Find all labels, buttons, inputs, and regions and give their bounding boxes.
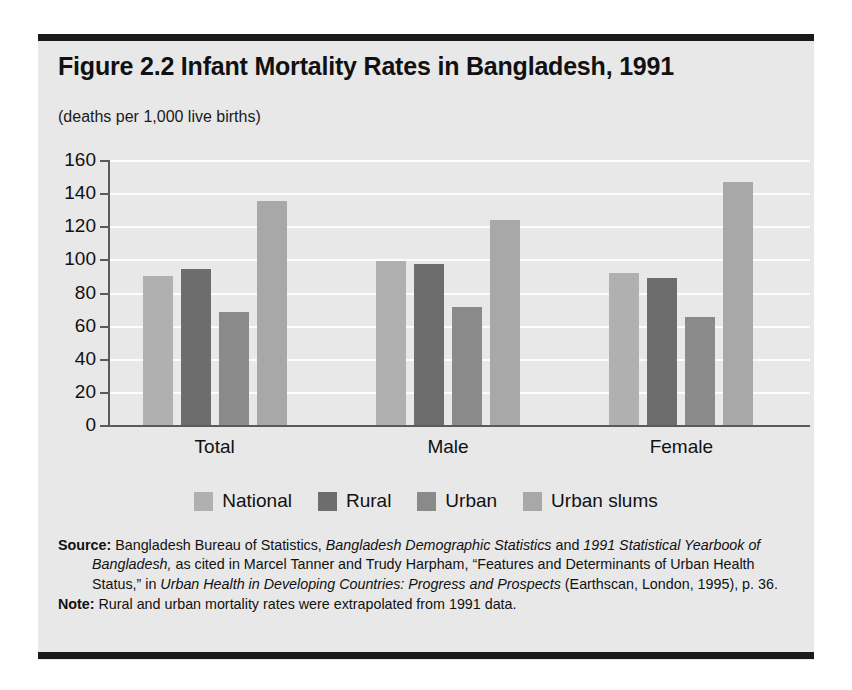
legend-swatch-icon (523, 492, 542, 511)
legend-swatch-icon (318, 492, 337, 511)
legend-item-urban[interactable]: Urban (417, 490, 497, 512)
source-label: Source: (58, 537, 111, 553)
legend-swatch-icon (194, 492, 213, 511)
y-axis-label: 100 (38, 248, 96, 270)
bar-group-female: Female (609, 160, 753, 425)
y-axis-label: 140 (38, 182, 96, 204)
source-italic-1: Bangladesh Demographic Statistics (326, 537, 552, 553)
note-text: Rural and urban mortality rates were ext… (95, 596, 517, 612)
bar-female-urban-slums[interactable] (723, 182, 753, 425)
chart-plot-area: 020406080100120140160 TotalMaleFemale (110, 160, 810, 425)
y-axis-label: 160 (38, 149, 96, 171)
bar-male-rural[interactable] (414, 264, 444, 425)
y-axis-tick (100, 226, 109, 228)
top-rule (38, 34, 814, 41)
figure-title: Figure 2.2 Infant Mortality Rates in Ban… (58, 52, 798, 81)
bar-male-national[interactable] (376, 261, 406, 425)
y-axis-tick (100, 326, 109, 328)
bar-group-male: Male (376, 160, 520, 425)
y-axis-tick (100, 160, 109, 162)
legend-item-rural[interactable]: Rural (318, 490, 391, 512)
bar-female-national[interactable] (609, 273, 639, 425)
source-italic-3: Urban Health in Developing Countries: Pr… (160, 576, 561, 592)
x-axis-label-female: Female (609, 436, 753, 458)
y-axis-label: 20 (38, 381, 96, 403)
legend-item-national[interactable]: National (194, 490, 292, 512)
figure-page: Figure 2.2 Infant Mortality Rates in Ban… (0, 0, 852, 690)
y-axis-tick (100, 293, 109, 295)
source-text-4: (Earthscan, London, 1995), p. 36. (561, 576, 778, 592)
bar-group-total: Total (143, 160, 287, 425)
legend-item-urban-slums[interactable]: Urban slums (523, 490, 658, 512)
y-axis-label: 40 (38, 348, 96, 370)
y-axis-tick (100, 392, 109, 394)
chart-legend: NationalRuralUrbanUrban slums (38, 490, 814, 512)
note-note: Note: Rural and urban mortality rates we… (58, 595, 798, 614)
x-axis-label-male: Male (376, 436, 520, 458)
y-axis-label: 60 (38, 315, 96, 337)
note-label: Note: (58, 596, 95, 612)
legend-label: Rural (346, 490, 391, 512)
bar-male-urban[interactable] (452, 307, 482, 425)
y-axis-label: 0 (38, 414, 96, 436)
bar-female-urban[interactable] (685, 317, 715, 425)
source-text-2: and (552, 537, 584, 553)
y-axis-tick (100, 259, 109, 261)
y-axis-label: 120 (38, 215, 96, 237)
source-text-1: Bangladesh Bureau of Statistics, (111, 537, 326, 553)
figure-notes: Source: Bangladesh Bureau of Statistics,… (58, 536, 798, 615)
bottom-rule (38, 652, 814, 659)
bar-total-national[interactable] (143, 276, 173, 425)
source-note: Source: Bangladesh Bureau of Statistics,… (58, 536, 798, 594)
bar-female-rural[interactable] (647, 278, 677, 425)
figure-subtitle: (deaths per 1,000 live births) (58, 108, 261, 126)
bar-total-rural[interactable] (181, 269, 211, 425)
y-axis-tick (100, 359, 109, 361)
legend-label: Urban (445, 490, 497, 512)
bar-total-urban[interactable] (219, 312, 249, 425)
chart-bars: TotalMaleFemale (110, 160, 810, 425)
legend-label: Urban slums (551, 490, 658, 512)
bar-male-urban-slums[interactable] (490, 220, 520, 425)
x-axis-label-total: Total (143, 436, 287, 458)
y-axis-label: 80 (38, 282, 96, 304)
bar-total-urban-slums[interactable] (257, 201, 287, 425)
legend-swatch-icon (417, 492, 436, 511)
legend-label: National (222, 490, 292, 512)
y-axis-tick (100, 193, 109, 195)
y-axis-tick (100, 425, 109, 427)
x-axis-line (108, 425, 810, 427)
